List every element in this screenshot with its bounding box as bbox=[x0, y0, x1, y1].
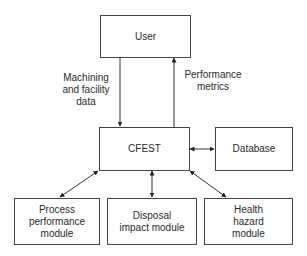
user-node: User bbox=[100, 15, 191, 58]
cfest-node: CFEST bbox=[99, 127, 190, 171]
database-label: Database bbox=[233, 143, 276, 155]
input-data-label: Machining and facility data bbox=[58, 72, 114, 108]
health-hazard-node: Health hazard module bbox=[204, 198, 293, 245]
process-performance-node: Process performance module bbox=[14, 198, 100, 245]
arrow-cfest-process bbox=[60, 171, 98, 197]
disposal-impact-node: Disposal impact module bbox=[107, 198, 197, 245]
database-node: Database bbox=[215, 127, 293, 171]
user-label: User bbox=[135, 31, 156, 43]
arrow-cfest-health bbox=[190, 171, 226, 197]
performance-metrics-label: Performance metrics bbox=[178, 69, 248, 93]
cfest-label: CFEST bbox=[128, 143, 161, 155]
